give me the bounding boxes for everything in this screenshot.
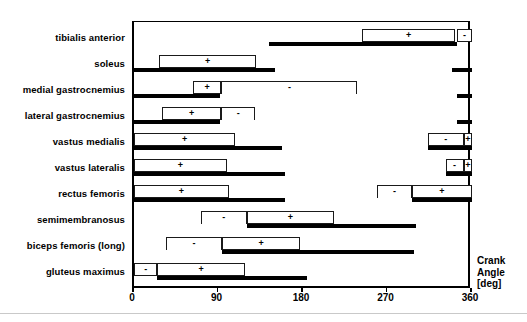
positive-interval-box: + [464, 159, 472, 172]
positive-interval-box: + [222, 237, 300, 250]
plot-area: +-++-+-+-++-++-+-+-+-+ [132, 21, 470, 288]
emg-bar [269, 42, 457, 46]
negative-interval-box: - [221, 107, 255, 120]
positive-interval-box: + [362, 29, 455, 42]
interval-sign: + [248, 212, 333, 223]
footer-divider [0, 313, 527, 314]
category-label: gluteus maximus [46, 267, 125, 277]
positive-interval-box: + [159, 55, 256, 68]
positive-interval-box: + [412, 185, 472, 198]
axis-title-line-1: Crank [477, 255, 505, 267]
x-tick-label: 360 [462, 292, 479, 303]
plot-inner: +-++-+-+-++-++-+-+-+-+ [134, 22, 468, 286]
interval-sign: - [167, 238, 221, 249]
emg-bar [157, 276, 306, 280]
x-tick-label: 90 [211, 292, 222, 303]
emg-bar [222, 250, 414, 254]
interval-sign: + [465, 134, 471, 145]
interval-sign: + [135, 160, 226, 171]
interval-sign: + [465, 160, 471, 171]
category-label: soleus [94, 59, 125, 69]
emg-bar [452, 68, 472, 72]
axis-title-line-3: [deg] [477, 278, 505, 290]
axis-title-line-2: Angle [477, 267, 505, 279]
interval-sign: + [160, 56, 255, 67]
interval-sign: - [222, 108, 254, 119]
x-tick-label: 0 [129, 292, 135, 303]
interval-sign: + [163, 108, 220, 119]
interval-sign: + [413, 186, 471, 197]
negative-interval-box: - [457, 29, 472, 42]
emg-bar [446, 172, 472, 176]
interval-sign: - [447, 160, 463, 171]
positive-interval-box: + [464, 133, 472, 146]
interval-sign: + [158, 264, 243, 275]
category-label: semimembranosus [37, 215, 125, 225]
emg-bar [134, 146, 282, 150]
category-label: rectus femoris [58, 189, 125, 199]
interval-sign: - [378, 186, 411, 197]
interval-sign: + [135, 186, 228, 197]
emg-bar [134, 172, 285, 176]
interval-sign: + [363, 30, 454, 41]
emg-bar [134, 68, 275, 72]
interval-sign: - [458, 30, 471, 41]
emg-bar [457, 94, 472, 98]
category-label: lateral gastrocnemius [25, 111, 125, 121]
x-tick-label: 180 [293, 292, 310, 303]
emg-bar [134, 120, 220, 124]
interval-sign: + [223, 238, 299, 249]
category-label: vastus medialis [53, 137, 125, 147]
interval-sign: - [202, 212, 246, 223]
x-tick-label: 270 [377, 292, 394, 303]
emg-bar [134, 198, 285, 202]
category-label: medial gastrocnemius [23, 85, 125, 95]
interval-sign: - [135, 264, 156, 275]
positive-interval-box: + [134, 133, 235, 146]
negative-interval-box: - [446, 159, 464, 172]
x-axis-title: Crank Angle [deg] [477, 255, 505, 290]
category-label: tibialis anterior [55, 33, 125, 43]
interval-sign: - [222, 82, 356, 93]
interval-sign: - [429, 134, 463, 145]
interval-sign: + [135, 134, 234, 145]
category-label: biceps femoris (long) [27, 241, 125, 251]
positive-interval-box: + [157, 263, 244, 276]
category-label: vastus lateralis [55, 163, 125, 173]
emg-bar [457, 120, 472, 124]
chart-root: tibialis anteriorsoleusmedial gastrocnem… [0, 0, 527, 322]
positive-interval-box: + [247, 211, 334, 224]
positive-interval-box: + [193, 81, 221, 94]
emg-bar [428, 146, 472, 150]
category-labels: tibialis anteriorsoleusmedial gastrocnem… [0, 0, 131, 290]
x-axis-ticks: 090180270360 [132, 288, 470, 296]
interval-sign: + [194, 82, 220, 93]
negative-interval-box: - [221, 81, 357, 94]
negative-interval-box: - [166, 237, 222, 250]
negative-interval-box: - [428, 133, 464, 146]
negative-interval-box: - [201, 211, 247, 224]
positive-interval-box: + [134, 159, 227, 172]
emg-bar [134, 94, 220, 98]
positive-interval-box: + [134, 185, 229, 198]
emg-bar [247, 224, 416, 228]
positive-interval-box: + [162, 107, 221, 120]
negative-interval-box: - [377, 185, 412, 198]
negative-interval-box: - [134, 263, 157, 276]
emg-bar [412, 198, 472, 202]
